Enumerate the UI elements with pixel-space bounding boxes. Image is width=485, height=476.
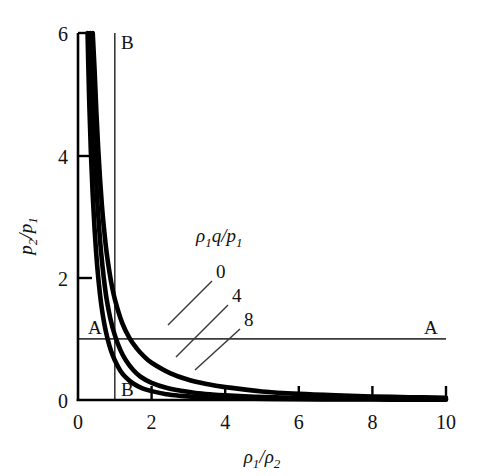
- curve-label-0: 0: [216, 261, 226, 282]
- curve-label-8: 8: [244, 309, 254, 330]
- x-tick-label-8: 8: [367, 411, 377, 433]
- x-tick-label-4: 4: [220, 411, 230, 433]
- x-tick-label-0: 0: [73, 411, 83, 433]
- y-tick-label-4: 4: [58, 146, 68, 168]
- figure-container: 6 4 2 0 0 2 4 6 8 10 ρ1/ρ2 p2/p1 ρ1q/p1 …: [0, 0, 485, 476]
- legend-p-sub: 1: [236, 235, 243, 250]
- x-title-rho1: ρ: [243, 446, 253, 467]
- y-title-sub1: 1: [25, 217, 40, 224]
- chart-svg: 6 4 2 0 0 2 4 6 8 10 ρ1/ρ2 p2/p1 ρ1q/p1 …: [0, 0, 485, 476]
- y-title-p1: p: [15, 224, 36, 236]
- legend-q: q: [212, 225, 222, 246]
- y-tick-label-0: 0: [58, 390, 68, 412]
- y-title-p2: p: [15, 245, 36, 257]
- legend-p: p: [224, 225, 236, 246]
- y-tick-label-6: 6: [58, 23, 68, 45]
- x-tick-label-2: 2: [147, 411, 157, 433]
- chart-background: [0, 0, 485, 476]
- line-a-label-left: A: [88, 317, 102, 338]
- line-b-label-bottom: B: [121, 379, 134, 400]
- line-a-label-right: A: [424, 317, 438, 338]
- x-title-rho2: ρ: [264, 446, 274, 467]
- x-tick-label-10: 10: [436, 411, 456, 433]
- legend-rho: ρ: [195, 225, 205, 246]
- y-tick-label-2: 2: [58, 268, 68, 290]
- curve-label-4: 4: [232, 285, 242, 306]
- x-tick-label-6: 6: [294, 411, 304, 433]
- line-b-label-top: B: [121, 32, 134, 53]
- x-title-sub2: 2: [274, 456, 281, 471]
